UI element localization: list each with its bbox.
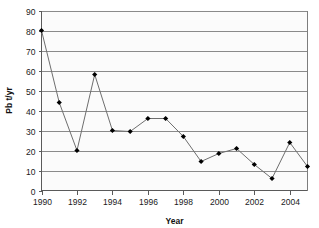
x-tick-label: 1998: [174, 197, 193, 207]
y-tick-label: 30: [26, 127, 36, 137]
y-tick-label: 10: [26, 167, 36, 177]
x-tick-label: 1990: [33, 197, 52, 207]
y-tick-label: 40: [26, 107, 36, 117]
x-tick-label: 1996: [139, 197, 158, 207]
x-tick-label: 2000: [210, 197, 229, 207]
y-tick-label: 50: [26, 87, 36, 97]
y-tick-label: 90: [26, 7, 36, 17]
plot-area-background: [42, 11, 308, 191]
x-tick-label: 1994: [103, 197, 122, 207]
chart-container: 0102030405060708090 19901992199419961998…: [0, 0, 319, 228]
x-tick-label: 2002: [245, 197, 264, 207]
y-tick-label: 80: [26, 27, 36, 37]
y-tick-label: 70: [26, 47, 36, 57]
x-tick-label: 1992: [68, 197, 87, 207]
x-axis-title: Year: [166, 216, 185, 226]
x-tick-label: 2004: [281, 197, 300, 207]
line-chart: 0102030405060708090 19901992199419961998…: [0, 0, 319, 228]
y-tick-label: 60: [26, 67, 36, 77]
y-axis-title: Pb t/yr: [4, 87, 14, 114]
y-tick-label: 0: [31, 187, 36, 197]
y-tick-label: 20: [26, 147, 36, 157]
